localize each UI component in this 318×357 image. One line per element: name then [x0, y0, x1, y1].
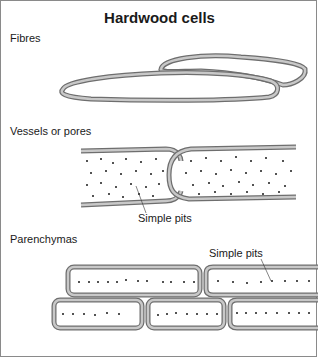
vessel-cells: [81, 147, 296, 213]
cells-illustration: [1, 1, 317, 357]
diagram-frame: Hardwood cells Fibres Vessels or pores S…: [0, 0, 317, 357]
parenchyma-cells: [54, 259, 317, 328]
fibre-cells: [62, 56, 305, 101]
